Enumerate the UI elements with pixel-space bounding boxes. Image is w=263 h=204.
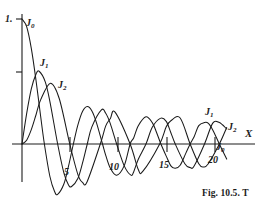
series-label-j2-left-sub: 2 xyxy=(63,84,67,92)
y-axis-top-label: 1. xyxy=(5,14,13,24)
series-label-j0-right-sub: 0 xyxy=(221,146,225,154)
curve-j0 xyxy=(22,19,227,195)
curve-j1 xyxy=(22,71,227,187)
x-tick-label-20: 20 xyxy=(208,155,218,165)
x-tick-label-15: 15 xyxy=(159,160,169,170)
x-tick-label-5: 5 xyxy=(64,167,69,177)
x-axis-label: X xyxy=(245,128,252,139)
series-label-j1-left: J1 xyxy=(40,58,49,68)
series-label-j1-right-sub: 1 xyxy=(210,111,214,119)
bessel-function-figure: 1. 5 10 15 20 X J0 J1 J2 J1 J2 J0 Fig. 1… xyxy=(0,0,263,204)
series-label-j0-left: J0 xyxy=(26,18,35,28)
series-label-j0-left-sub: 0 xyxy=(31,22,35,30)
series-label-j2-right: J2 xyxy=(228,122,237,132)
series-label-j1-right: J1 xyxy=(205,107,214,117)
x-tick-label-10: 10 xyxy=(109,162,119,172)
series-label-j1-left-sub: 1 xyxy=(45,62,49,70)
series-label-j2-right-sub: 2 xyxy=(233,126,237,134)
series-label-j0-right: J0 xyxy=(216,142,225,152)
bessel-curves-group xyxy=(22,19,227,195)
figure-caption: Fig. 10.5. T xyxy=(202,189,249,199)
series-label-j2-left: J2 xyxy=(58,80,67,90)
bessel-plot-canvas xyxy=(0,0,263,204)
curve-j2 xyxy=(22,83,227,185)
